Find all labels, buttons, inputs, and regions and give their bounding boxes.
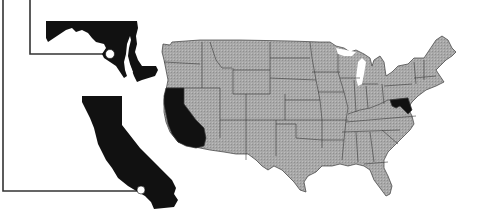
- maryland-inset: [46, 21, 158, 82]
- california-city-marker[interactable]: [137, 186, 145, 194]
- us-mainland: [162, 36, 456, 196]
- map-canvas: [0, 0, 495, 221]
- california-inset: [82, 96, 178, 209]
- us-map-figure: [0, 0, 495, 221]
- maryland-city-marker[interactable]: [106, 50, 115, 59]
